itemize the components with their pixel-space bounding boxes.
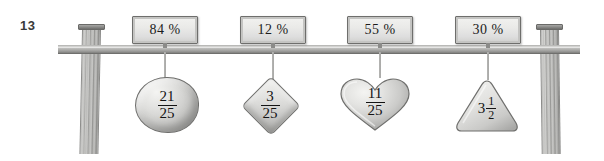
wooden-post-left — [82, 24, 101, 154]
horizontal-bar — [58, 45, 580, 54]
percent-plaque-1: 84 % — [132, 16, 198, 44]
fraction-denominator-3: 25 — [366, 102, 385, 119]
fraction-numerator-2: 3 — [261, 89, 280, 105]
weight-diamond: 3 25 — [243, 78, 297, 132]
mixed-whole-4: 3 — [478, 101, 486, 116]
percent-plaque-2: 12 % — [240, 16, 306, 44]
weight-value-4: 3 1 2 — [478, 95, 497, 121]
exercise-illustration: 13 84 % 12 % 55 % 30 % — [0, 0, 604, 161]
percent-plaque-3: 55 % — [347, 16, 413, 44]
hanging-wire-4 — [487, 52, 489, 80]
weight-value-2: 3 25 — [261, 89, 280, 122]
hanging-wire-3 — [379, 52, 381, 78]
percent-label-4: 30 % — [472, 22, 503, 38]
fraction-denominator-2: 25 — [261, 105, 280, 122]
weight-value-3: 11 25 — [366, 86, 385, 119]
fraction-denominator-4: 2 — [486, 108, 496, 122]
weight-oval: 21 25 — [135, 77, 199, 133]
fraction-numerator-4: 1 — [486, 95, 496, 108]
exercise-number: 13 — [20, 18, 35, 33]
fraction-numerator-3: 11 — [366, 86, 385, 102]
weight-triangle: 3 1 2 — [453, 79, 521, 133]
percent-label-2: 12 % — [257, 22, 288, 38]
fraction-numerator-1: 21 — [158, 89, 177, 105]
percent-plaque-4: 30 % — [455, 16, 521, 44]
wooden-post-right — [540, 24, 559, 154]
hanging-wire-1 — [164, 52, 166, 78]
fraction-denominator-1: 25 — [158, 105, 177, 122]
hanging-wire-2 — [272, 52, 274, 79]
weight-heart: 11 25 — [340, 77, 410, 133]
percent-label-3: 55 % — [364, 22, 395, 38]
weight-value-1: 21 25 — [158, 89, 177, 122]
percent-label-1: 84 % — [149, 22, 180, 38]
